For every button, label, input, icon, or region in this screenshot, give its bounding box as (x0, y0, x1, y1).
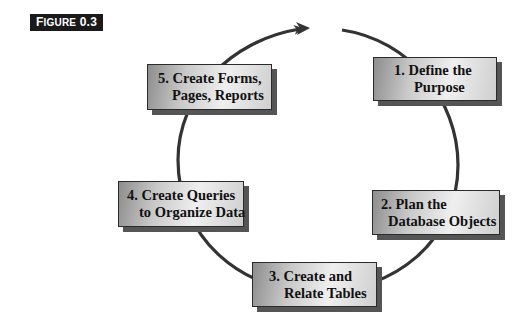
step-1-line2: Purpose (394, 79, 496, 96)
step-2-plan-database-objects: 2. Plan the Database Objects (372, 190, 500, 235)
step-2-line2: Database Objects (381, 213, 499, 230)
step-4-create-queries: 4. Create Queries to Organize Data (118, 181, 244, 227)
step-3-create-relate-tables: 3. Create and Relate Tables (252, 262, 377, 307)
step-1-define-purpose: 1. Define the Purpose (373, 57, 497, 101)
step-3-line2: Relate Tables (269, 285, 376, 302)
step-5-line2: Pages, Reports (158, 87, 271, 104)
step-2-line1: 2. Plan the (381, 196, 499, 213)
step-4-line1: 4. Create Queries (127, 187, 243, 204)
step-3-line1: 3. Create and (269, 268, 376, 285)
step-5-create-forms-pages-reports: 5. Create Forms, Pages, Reports (147, 64, 272, 110)
step-1-line1: 1. Define the (394, 62, 496, 79)
step-5-line1: 5. Create Forms, (158, 70, 271, 87)
step-4-line2: to Organize Data (127, 204, 243, 221)
